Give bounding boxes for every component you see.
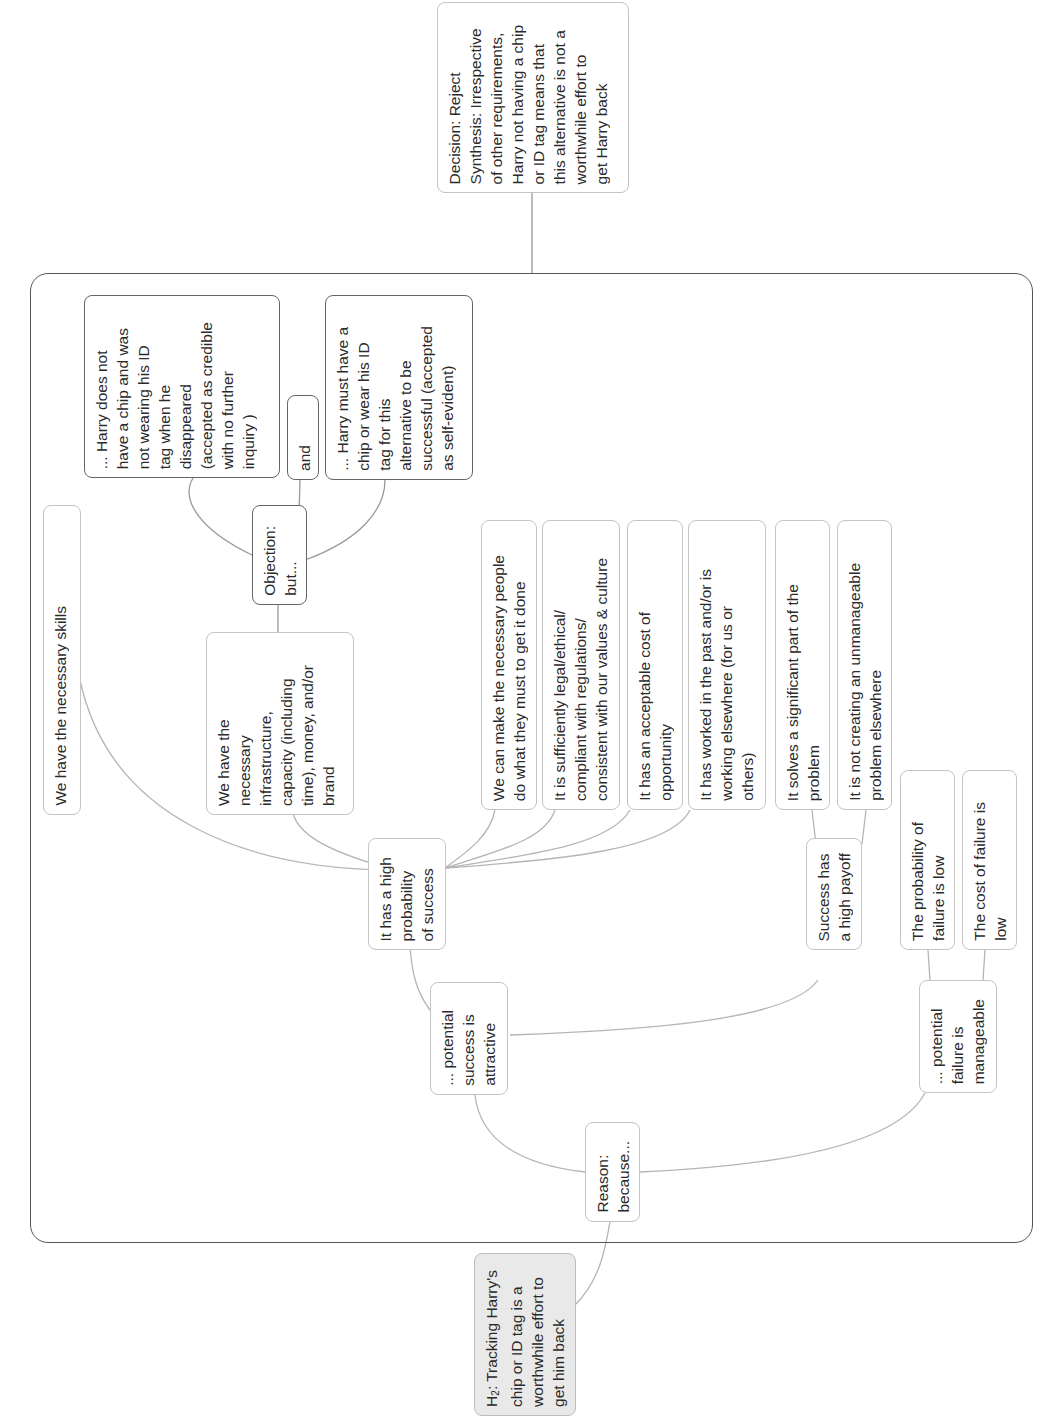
probability-failure-low-node[interactable]: The probability of failure is low — [900, 770, 955, 950]
legal-node[interactable]: It is sufficiently legal/ethical/ compli… — [542, 520, 620, 810]
high-probability-text: It has a high probability of success — [375, 857, 438, 941]
reason-node[interactable]: Reason: because... — [585, 1122, 640, 1222]
objection-premise-1-node[interactable]: ... Harry does not have a chip and was n… — [84, 295, 280, 478]
and-connector-text: and — [294, 445, 315, 471]
failure-manageable-node[interactable]: ... potential failure is manageable — [919, 980, 997, 1093]
not-creating-node[interactable]: It is not creating an unmanageable probl… — [837, 520, 892, 810]
reason-text: Reason: because... — [592, 1141, 634, 1213]
cost-opportunity-node[interactable]: It has an acceptable cost of opportunity — [627, 520, 683, 810]
probability-failure-low-text: The probability of failure is low — [907, 822, 949, 941]
objection-premise-1-text: ... Harry does not have a chip and was n… — [91, 322, 259, 469]
and-connector-node[interactable]: and — [287, 395, 319, 480]
success-attractive-text: ... potential success is attractive — [437, 1010, 500, 1086]
skills-text: We have the necessary skills — [50, 606, 71, 806]
objection-premise-2-text: ... Harry must have a chip or wear his I… — [332, 326, 458, 471]
people-text: We can make the necessary people do what… — [488, 555, 530, 801]
high-probability-node[interactable]: It has a high probability of success — [368, 838, 446, 950]
cost-failure-low-text: The cost of failure is low — [969, 802, 1011, 941]
hypothesis-node[interactable]: H2: Tracking Harry's chip or ID tag is a… — [474, 1253, 576, 1416]
solves-problem-text: It solves a significant part of the prob… — [782, 584, 824, 801]
failure-manageable-text: ... potential failure is manageable — [926, 999, 989, 1084]
worked-past-text: It has worked in the past and/or is work… — [695, 569, 758, 801]
infrastructure-text: We have the necessary infrastructure, ca… — [213, 665, 339, 806]
cost-opportunity-text: It has an acceptable cost of opportunity — [634, 612, 676, 801]
success-attractive-node[interactable]: ... potential success is attractive — [430, 982, 508, 1095]
decision-node[interactable]: Decision: Reject Synthesis: Irrespective… — [437, 2, 629, 193]
solves-problem-node[interactable]: It solves a significant part of the prob… — [775, 520, 830, 810]
objection-node[interactable]: Objection: but... — [252, 505, 307, 605]
worked-past-node[interactable]: It has worked in the past and/or is work… — [688, 520, 766, 810]
high-payoff-text: Success has a high payoff — [813, 853, 855, 941]
objection-text: Objection: but... — [259, 526, 301, 596]
cost-failure-low-node[interactable]: The cost of failure is low — [962, 770, 1017, 950]
legal-text: It is sufficiently legal/ethical/ compli… — [549, 558, 612, 801]
hypothesis-text: H2: Tracking Harry's chip or ID tag is a… — [481, 1270, 569, 1407]
people-node[interactable]: We can make the necessary people do what… — [481, 520, 537, 810]
infrastructure-node[interactable]: We have the necessary infrastructure, ca… — [206, 632, 354, 815]
skills-node[interactable]: We have the necessary skills — [43, 505, 81, 815]
not-creating-text: It is not creating an unmanageable probl… — [844, 563, 886, 801]
objection-premise-2-node[interactable]: ... Harry must have a chip or wear his I… — [325, 295, 473, 480]
high-payoff-node[interactable]: Success has a high payoff — [806, 838, 862, 950]
decision-text: Decision: Reject Synthesis: Irrespective… — [444, 25, 612, 184]
